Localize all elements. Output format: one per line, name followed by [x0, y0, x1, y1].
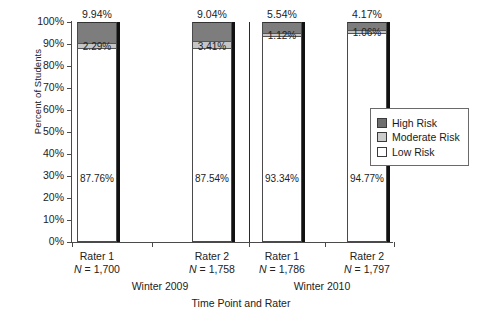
segment-high-risk[interactable] — [192, 22, 232, 42]
legend-label: Moderate Risk — [392, 131, 460, 143]
y-tick-label: 60% — [43, 103, 64, 115]
segment-moderate-risk[interactable] — [77, 44, 117, 49]
y-tick-label: 30% — [43, 169, 64, 181]
sample-size-label: N = 1,758 — [178, 263, 246, 275]
y-tick-label: 10% — [43, 213, 64, 225]
label-high-risk: 9.94% — [77, 8, 117, 20]
y-tick-label: 20% — [43, 191, 64, 203]
legend-item-1[interactable]: High Risk — [377, 117, 460, 129]
segment-high-risk[interactable] — [347, 22, 387, 31]
sample-size-label: N = 1,786 — [248, 263, 316, 275]
segment-moderate-risk[interactable] — [262, 34, 302, 36]
rater-label: Rater 2 — [178, 250, 246, 262]
bar-3[interactable]: 93.34%1.12%5.54% — [262, 22, 302, 242]
x-label-group-3: Rater 1N = 1,786 — [248, 250, 316, 275]
y-tick-label: 0% — [49, 235, 64, 247]
legend-swatch-icon — [377, 118, 387, 128]
segment-moderate-risk[interactable] — [347, 31, 387, 33]
x-axis-title: Time Point and Rater — [0, 297, 482, 309]
segment-high-risk[interactable] — [262, 22, 302, 34]
bar-1[interactable]: 87.76%2.29%9.94% — [77, 22, 117, 242]
stacked-bar-chart: Percent of Students 0%10%20%30%40%50%60%… — [0, 0, 482, 319]
group-separator — [249, 22, 250, 242]
x-tick-mark — [325, 242, 326, 247]
legend-item-3[interactable]: Low Risk — [377, 146, 460, 158]
x-label-group-4: Rater 2N = 1,797 — [333, 250, 401, 275]
legend-swatch-icon — [377, 132, 387, 142]
rater-label: Rater 1 — [248, 250, 316, 262]
segment-low-risk[interactable] — [262, 37, 302, 242]
group-label-2: Winter 2010 — [262, 280, 382, 292]
legend-label: Low Risk — [392, 146, 435, 158]
x-label-group-1: Rater 1N = 1,700 — [63, 250, 131, 275]
y-tick-label: 90% — [43, 37, 64, 49]
x-tick-mark — [249, 242, 250, 247]
x-label-group-2: Rater 2N = 1,758 — [178, 250, 246, 275]
label-high-risk: 4.17% — [347, 8, 387, 20]
y-axis-title: Percent of Students — [32, 27, 43, 157]
x-tick-mark — [72, 242, 73, 247]
rater-label: Rater 2 — [333, 250, 401, 262]
plot-area: 87.76%2.29%9.94%87.54%3.41%9.04%93.34%1.… — [72, 22, 392, 242]
y-tick-label: 40% — [43, 147, 64, 159]
bar-shadow-edge — [232, 22, 235, 242]
label-high-risk: 5.54% — [262, 8, 302, 20]
segment-low-risk[interactable] — [77, 49, 117, 242]
segment-low-risk[interactable] — [192, 49, 232, 242]
y-tick-label: 70% — [43, 81, 64, 93]
segment-high-risk[interactable] — [77, 22, 117, 44]
bar-shadow-edge — [302, 22, 305, 242]
legend-item-2[interactable]: Moderate Risk — [377, 131, 460, 143]
legend-label: High Risk — [392, 117, 437, 129]
rater-label: Rater 1 — [63, 250, 131, 262]
sample-size-label: N = 1,797 — [333, 263, 401, 275]
label-high-risk: 9.04% — [192, 8, 232, 20]
group-label-1: Winter 2009 — [100, 280, 220, 292]
y-tick-label: 80% — [43, 59, 64, 71]
x-tick-mark — [152, 242, 153, 247]
y-tick-label: 50% — [43, 125, 64, 137]
y-tick-label: 100% — [37, 15, 64, 27]
chart-legend: High RiskModerate RiskLow Risk — [370, 108, 469, 166]
segment-moderate-risk[interactable] — [192, 42, 232, 50]
x-tick-mark — [394, 242, 395, 247]
bar-2[interactable]: 87.54%3.41%9.04% — [192, 22, 232, 242]
legend-swatch-icon — [377, 147, 387, 157]
sample-size-label: N = 1,700 — [63, 263, 131, 275]
x-axis-line — [71, 242, 393, 243]
bar-shadow-edge — [117, 22, 120, 242]
